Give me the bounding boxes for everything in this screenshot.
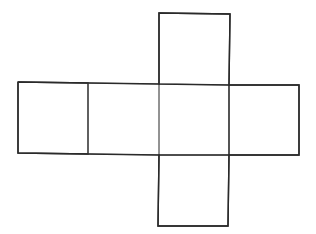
face-bottom (158, 155, 229, 226)
net-outline (18, 13, 299, 226)
face-left (18, 82, 88, 154)
face-center-left (88, 83, 159, 155)
face-right (229, 85, 299, 155)
face-top (159, 13, 230, 85)
face-center (159, 84, 229, 155)
cube-net-diagram (0, 0, 316, 234)
